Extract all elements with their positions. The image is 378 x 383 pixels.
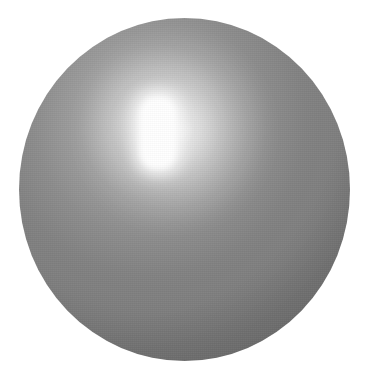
specular-highlight-core (141, 99, 175, 167)
image-canvas (0, 0, 378, 383)
gray-sphere (19, 18, 350, 361)
